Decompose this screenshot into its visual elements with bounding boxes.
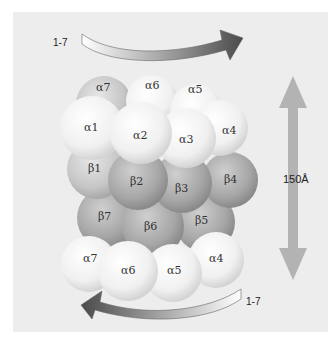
subunit-label: β2 (130, 175, 143, 188)
subunit-label: β4 (224, 173, 237, 186)
subunit-label: α4 (209, 252, 223, 265)
subunit-label: α6 (121, 264, 135, 277)
subunit-label: β7 (98, 210, 111, 223)
subunit-label: α1 (84, 121, 98, 134)
dimension-arrow: 150Å (279, 76, 309, 280)
proteasome-diagram: 1-7 150Å α7 α6 α5 β7 β6 β5 β1 β2 β3 β4 (0, 0, 336, 350)
subunit-label: α5 (188, 83, 202, 96)
subunit-label: α7 (83, 252, 97, 265)
subunit-label: α2 (133, 129, 147, 142)
rotation-label-top: 1-7 (53, 37, 68, 48)
subunit-label: α7 (96, 81, 110, 94)
subunit-label: β6 (144, 220, 157, 233)
subunit-label: β3 (175, 182, 188, 195)
subunit-label: α6 (145, 79, 159, 92)
subunit-label: α4 (222, 124, 236, 137)
subunit-label: α3 (179, 133, 193, 146)
subunit-label: β1 (88, 162, 101, 175)
rotation-arrow-top: 1-7 (53, 30, 243, 61)
dimension-label: 150Å (283, 173, 309, 185)
rotation-label-bottom: 1-7 (246, 296, 261, 307)
subunit-label: α5 (167, 264, 181, 277)
subunit-label: β5 (195, 214, 208, 227)
